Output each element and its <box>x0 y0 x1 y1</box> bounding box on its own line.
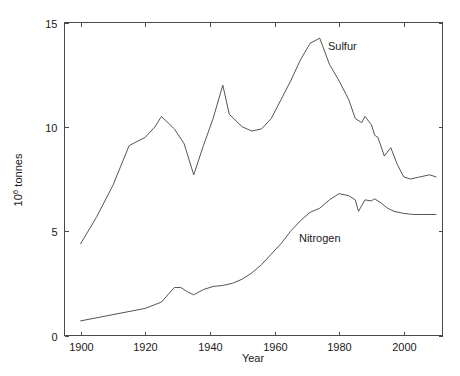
plot-frame <box>65 23 443 336</box>
x-axis-tick-labels: 190019201940196019802000 <box>69 341 416 353</box>
chart-figure: 190019201940196019802000 051015 SulfurNi… <box>0 0 460 376</box>
x-tick-label: 1960 <box>263 341 287 353</box>
y-tick-label: 0 <box>51 331 57 343</box>
x-tick-label: 2000 <box>392 341 416 353</box>
data-series-group <box>81 38 436 321</box>
y-axis-tick-labels: 051015 <box>45 18 57 343</box>
series-label-nitrogen: Nitrogen <box>299 232 341 244</box>
x-tick-label: 1940 <box>198 341 222 353</box>
y-axis-title-unit: tonnes <box>12 153 24 190</box>
x-tick-label: 1920 <box>133 341 157 353</box>
series-line-nitrogen <box>81 194 436 321</box>
series-label-sulfur: Sulfur <box>328 40 357 52</box>
series-line-sulfur <box>81 38 436 244</box>
y-tick-label: 15 <box>45 18 57 30</box>
series-annotation-group: SulfurNitrogen <box>299 40 357 244</box>
y-axis-title: 106 tonnes <box>11 153 24 206</box>
line-chart-canvas: 190019201940196019802000 051015 SulfurNi… <box>0 0 460 376</box>
y-axis-ticks <box>65 24 443 337</box>
y-tick-label: 5 <box>51 226 57 238</box>
x-tick-label: 1900 <box>69 341 93 353</box>
x-tick-label: 1980 <box>327 341 351 353</box>
y-axis-title-mantissa: 10 <box>12 194 24 206</box>
x-axis-title: Year <box>242 352 265 364</box>
x-axis-ticks <box>82 23 405 336</box>
y-tick-label: 10 <box>45 122 57 134</box>
